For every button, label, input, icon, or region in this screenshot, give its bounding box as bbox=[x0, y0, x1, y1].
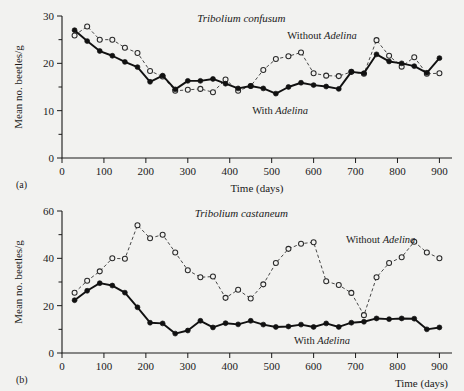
data-point-without bbox=[110, 256, 115, 261]
data-point-without bbox=[299, 50, 304, 55]
x-tick-label: 900 bbox=[431, 165, 448, 177]
data-point-with bbox=[248, 84, 253, 89]
data-point-with bbox=[387, 317, 392, 322]
data-point-without bbox=[85, 24, 90, 29]
x-tick-label: 500 bbox=[263, 360, 280, 372]
y-axis-ticks: 0102030 bbox=[43, 10, 62, 164]
x-tick-label: 900 bbox=[431, 360, 448, 372]
data-point-without bbox=[349, 290, 354, 295]
x-tick-label: 400 bbox=[221, 360, 238, 372]
data-point-with bbox=[311, 325, 316, 330]
chart-title: Tribolium castaneum bbox=[195, 207, 288, 219]
data-point-with bbox=[135, 305, 140, 310]
data-point-without bbox=[261, 282, 266, 287]
axis-lines bbox=[62, 211, 452, 353]
data-point-with bbox=[412, 316, 417, 321]
series-with-adelina bbox=[72, 281, 442, 336]
x-tick-label: 0 bbox=[59, 165, 65, 177]
figure-tribolium-adelina: 01020300100200300400500600700800900Mean … bbox=[0, 0, 464, 391]
data-point-without bbox=[72, 33, 77, 38]
data-point-with bbox=[198, 78, 203, 83]
data-point-without bbox=[374, 275, 379, 280]
data-point-with bbox=[437, 325, 442, 330]
data-point-with bbox=[135, 65, 140, 70]
data-point-without bbox=[210, 90, 215, 95]
data-point-with bbox=[223, 321, 228, 326]
data-point-with bbox=[185, 328, 190, 333]
x-tick-label: 500 bbox=[263, 165, 280, 177]
x-axis-title: Time (days) bbox=[230, 182, 283, 195]
data-point-with bbox=[85, 288, 90, 293]
data-point-without bbox=[198, 275, 203, 280]
data-point-without bbox=[223, 295, 228, 300]
axes bbox=[62, 211, 452, 353]
data-point-with bbox=[173, 87, 178, 92]
data-point-with bbox=[349, 69, 354, 74]
x-tick-label: 600 bbox=[305, 165, 322, 177]
data-point-with bbox=[374, 316, 379, 321]
data-point-with bbox=[72, 28, 77, 33]
data-point-without bbox=[85, 278, 90, 283]
data-point-with bbox=[286, 324, 291, 329]
data-point-without bbox=[72, 290, 77, 295]
data-point-with bbox=[324, 321, 329, 326]
y-tick-label: 60 bbox=[43, 205, 55, 217]
data-point-with bbox=[261, 86, 266, 91]
data-point-without bbox=[210, 274, 215, 279]
y-tick-label: 20 bbox=[43, 300, 55, 312]
x-tick-label: 600 bbox=[305, 360, 322, 372]
annotation-without-adelina: Without Adelina bbox=[287, 30, 356, 41]
x-axis-ticks: 0100200300400500600700800900 bbox=[59, 158, 448, 177]
y-tick-label: 30 bbox=[43, 10, 55, 22]
data-point-without bbox=[311, 71, 316, 76]
data-point-without bbox=[135, 223, 140, 228]
x-tick-label: 100 bbox=[96, 360, 113, 372]
x-tick-label: 800 bbox=[389, 360, 406, 372]
data-point-without bbox=[412, 55, 417, 60]
data-point-with bbox=[122, 290, 127, 295]
data-point-without bbox=[336, 74, 341, 79]
x-tick-label: 200 bbox=[138, 165, 155, 177]
data-point-with bbox=[374, 52, 379, 57]
x-tick-label: 300 bbox=[180, 360, 197, 372]
annotation-without-adelina: Without Adelina bbox=[346, 234, 415, 245]
data-point-with bbox=[399, 316, 404, 321]
data-point-with bbox=[349, 320, 354, 325]
data-point-without bbox=[135, 50, 140, 55]
data-point-with bbox=[336, 325, 341, 330]
data-point-with bbox=[122, 59, 127, 64]
data-point-with bbox=[223, 81, 228, 86]
data-point-without bbox=[148, 236, 153, 241]
data-point-with bbox=[336, 86, 341, 91]
data-point-without bbox=[387, 53, 392, 58]
data-point-without bbox=[122, 256, 127, 261]
data-point-without bbox=[387, 261, 392, 266]
x-tick-label: 700 bbox=[347, 360, 364, 372]
data-point-with bbox=[236, 322, 241, 327]
data-point-with bbox=[261, 322, 266, 327]
chart-title: Tribolium confusum bbox=[197, 12, 285, 24]
data-point-without bbox=[97, 37, 102, 42]
data-point-without bbox=[286, 246, 291, 251]
data-point-without bbox=[399, 255, 404, 260]
data-point-with bbox=[173, 331, 178, 336]
data-point-without bbox=[160, 232, 165, 237]
x-tick-label: 700 bbox=[347, 165, 364, 177]
x-axis-title: Time (days) bbox=[395, 377, 448, 390]
data-point-without bbox=[185, 87, 190, 92]
data-point-without bbox=[173, 250, 178, 255]
x-tick-label: 300 bbox=[180, 165, 197, 177]
panel-letter: (a) bbox=[16, 179, 27, 191]
y-axis-title: Mean no. beetles/g bbox=[12, 240, 24, 324]
x-tick-label: 200 bbox=[138, 360, 155, 372]
data-point-with bbox=[273, 325, 278, 330]
data-point-with bbox=[160, 321, 165, 326]
data-point-without bbox=[374, 38, 379, 43]
data-point-with bbox=[437, 56, 442, 61]
annotation-with-adelina: With Adelina bbox=[294, 335, 350, 346]
data-point-with bbox=[211, 325, 216, 330]
annotation-with-adelina: With Adelina bbox=[252, 105, 308, 116]
data-point-with bbox=[273, 91, 278, 96]
data-point-with bbox=[361, 71, 366, 76]
data-point-without bbox=[336, 283, 341, 288]
